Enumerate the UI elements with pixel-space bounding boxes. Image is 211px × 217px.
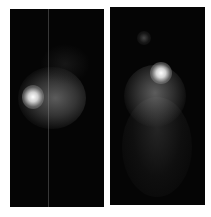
bright-focal-spot [150, 62, 172, 84]
scan-panel-right [110, 7, 205, 205]
scan-panel-left [10, 9, 104, 207]
bright-focal-spot [22, 85, 44, 109]
small-faint-spot [137, 31, 151, 45]
scan-line-artifact [48, 9, 49, 207]
